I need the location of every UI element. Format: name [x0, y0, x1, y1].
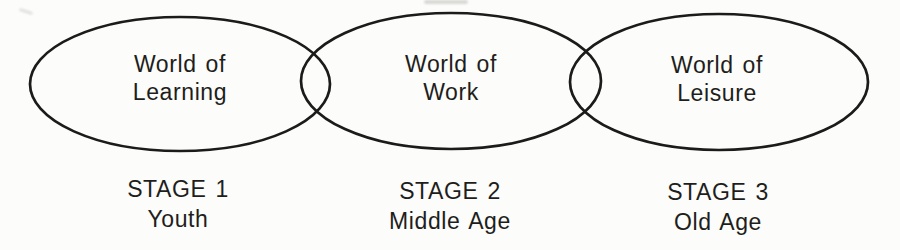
stage-3-title: STAGE 3 [667, 177, 769, 207]
world-of-leisure-line2: Leisure [671, 79, 763, 107]
world-of-leisure-line1: World of [671, 51, 763, 79]
life-stages-diagram: World of Learning World of Work World of… [0, 0, 900, 250]
stage-1-caption: STAGE 1 Youth [127, 174, 229, 234]
world-of-learning-line2: Learning [133, 78, 227, 106]
world-of-learning-label: World of Learning [133, 50, 227, 106]
world-of-work-line1: World of [405, 50, 497, 78]
stage-1-title: STAGE 1 [127, 174, 229, 204]
scan-artifact [424, 0, 468, 4]
stage-2-title: STAGE 2 [389, 176, 511, 206]
stage-2-age: Middle Age [389, 206, 511, 236]
stage-1-age: Youth [127, 204, 229, 234]
stage-3-age: Old Age [667, 207, 769, 237]
stage-2-caption: STAGE 2 Middle Age [389, 176, 511, 236]
world-of-leisure-label: World of Leisure [671, 51, 763, 107]
world-of-work-line2: Work [405, 78, 497, 106]
world-of-learning-line1: World of [133, 50, 227, 78]
stage-3-caption: STAGE 3 Old Age [667, 177, 769, 237]
world-of-work-label: World of Work [405, 50, 497, 106]
